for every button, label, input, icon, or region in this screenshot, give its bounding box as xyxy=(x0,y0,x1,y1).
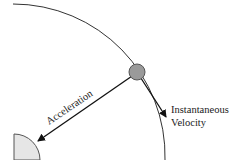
velocity-label-line2: Velocity xyxy=(171,117,207,128)
center-body xyxy=(14,134,40,160)
velocity-label-line1: Instantaneous xyxy=(171,104,229,115)
moving-object xyxy=(129,64,145,80)
orbit-path xyxy=(13,4,165,160)
acceleration-arrow xyxy=(38,74,135,141)
circular-motion-diagram: Acceleration Instantaneous Velocity xyxy=(0,0,241,160)
